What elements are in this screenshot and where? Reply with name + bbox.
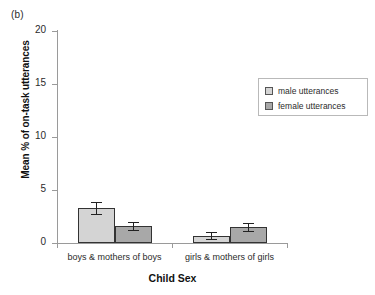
error-bar-cap-lower-female-group-2 (243, 231, 254, 232)
legend-label-male: male utterances (278, 86, 338, 96)
y-axis-tick-label-0: 0 (0, 236, 46, 247)
error-bar-line-female-group-1 (133, 222, 134, 230)
y-axis-tick-label-20: 20 (0, 24, 46, 35)
legend-label-female: female utterances (278, 101, 346, 111)
error-bar-cap-upper-female-group-1 (128, 222, 139, 223)
legend-item-female: female utterances (265, 101, 346, 111)
error-bar-cap-upper-male-group-1 (91, 202, 102, 203)
legend-swatch-male-icon (265, 87, 273, 95)
error-bar-cap-lower-female-group-1 (128, 230, 139, 231)
bars-layer (57, 31, 287, 243)
error-bar-line-male-group-1 (96, 202, 97, 214)
error-bar-line-female-group-2 (248, 223, 249, 231)
y-axis-tick-label-10: 10 (0, 130, 46, 141)
x-axis-tick-start (57, 243, 58, 248)
x-axis-tick-mid (172, 243, 173, 248)
x-axis-title: Child Sex (57, 272, 288, 284)
legend-item-male: male utterances (265, 86, 338, 96)
x-axis-label-group-2: girls & mothers of girls (160, 252, 300, 262)
x-axis-tick-end (287, 243, 288, 248)
error-bar-cap-lower-male-group-1 (91, 214, 102, 215)
chart-legend: male utterances female utterances (258, 78, 368, 116)
chart-figure: (b) Mean % of on-task utterances 0510152… (0, 0, 375, 295)
error-bar-cap-lower-male-group-2 (206, 239, 217, 240)
legend-swatch-female-icon (265, 102, 273, 110)
error-bar-line-male-group-2 (211, 232, 212, 239)
y-axis-tick-label-15: 15 (0, 77, 46, 88)
error-bar-cap-upper-female-group-2 (243, 223, 254, 224)
y-axis-tick-label-5: 5 (0, 183, 46, 194)
error-bar-cap-upper-male-group-2 (206, 232, 217, 233)
